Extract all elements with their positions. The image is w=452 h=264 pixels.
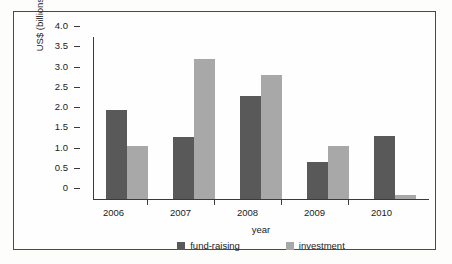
bar — [240, 96, 261, 199]
y-axis-tick — [74, 87, 80, 88]
bar — [261, 75, 282, 199]
chart-frame: US$ (billions) 00.51.01.52.02.53.03.54.0… — [13, 11, 436, 250]
x-axis-tick-label: 2007 — [151, 208, 211, 218]
legend-item[interactable]: fund-raising — [177, 241, 240, 251]
y-axis-tick — [74, 26, 80, 27]
x-axis-tick-label: 2010 — [352, 208, 412, 218]
y-axis-tick-label: 2.5 — [28, 82, 68, 92]
legend-swatch-icon — [286, 242, 294, 250]
x-axis-tick — [214, 200, 215, 205]
y-axis-tick-label: 1.0 — [28, 143, 68, 153]
bar — [127, 146, 148, 199]
y-axis-tick-label: 1.5 — [28, 122, 68, 132]
bar — [328, 146, 349, 199]
x-axis-title: year — [93, 224, 429, 235]
y-axis-tick — [74, 168, 80, 169]
y-axis-tick-label: 3.5 — [28, 41, 68, 51]
bar — [395, 195, 416, 199]
chart-legend: fund-raisinginvestment — [93, 241, 429, 251]
y-axis-tick-label: 4.0 — [28, 21, 68, 31]
y-axis-tick-label: 0 — [28, 183, 68, 193]
legend-label: investment — [299, 241, 345, 251]
legend-item[interactable]: investment — [286, 241, 345, 251]
legend-label: fund-raising — [190, 241, 240, 251]
y-axis-tick — [74, 127, 80, 128]
bar — [194, 59, 215, 199]
bar — [106, 110, 127, 199]
y-axis-tick-label: 3.0 — [28, 62, 68, 72]
x-axis-tick — [281, 200, 282, 205]
bar — [374, 136, 395, 199]
y-axis-tick-label: 0.5 — [28, 163, 68, 173]
y-axis-tick — [74, 107, 80, 108]
plot-area — [93, 37, 428, 199]
x-axis-line — [93, 199, 429, 200]
y-axis-tick — [74, 46, 80, 47]
y-axis-tick — [74, 148, 80, 149]
figure: US$ (billions) 00.51.01.52.02.53.03.54.0… — [0, 0, 452, 264]
bar — [307, 162, 328, 199]
x-axis-tick-label: 2006 — [84, 208, 144, 218]
legend-swatch-icon — [177, 242, 185, 250]
x-axis-tick-label: 2008 — [218, 208, 278, 218]
bar — [173, 137, 194, 199]
y-axis-tick — [74, 67, 80, 68]
x-axis-tick — [147, 200, 148, 205]
x-axis-tick — [348, 200, 349, 205]
y-axis-tick-label: 2.0 — [28, 102, 68, 112]
x-axis-tick-label: 2009 — [285, 208, 345, 218]
y-axis-tick — [74, 188, 80, 189]
